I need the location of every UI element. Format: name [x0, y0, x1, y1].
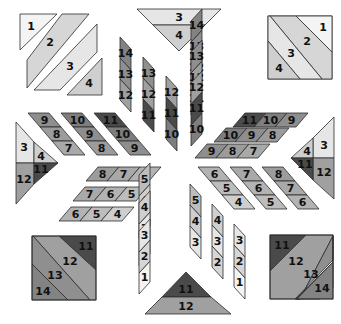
strip-piece-label: 11	[141, 109, 156, 122]
label-br-11: 11	[274, 239, 289, 252]
strip-piece-label: 4	[214, 214, 222, 227]
strip-piece-label: 4	[141, 201, 149, 214]
strip-bottom-right-1: 543	[190, 184, 201, 259]
label-tl-2: 2	[46, 36, 54, 49]
label-left-4: 4	[37, 150, 45, 163]
corner-bottom-left: 11 12 13 14	[32, 236, 96, 300]
strip-piece-label: 12	[189, 81, 204, 94]
strip-piece-label: 10	[164, 128, 180, 141]
triangle-top: 3 4	[137, 9, 221, 51]
strip-piece-label: 2	[236, 255, 244, 268]
strip-piece-label: 8	[98, 142, 106, 155]
strip-piece-label: 8	[229, 145, 237, 158]
strip-bottom-right-3: 321	[234, 224, 245, 299]
strip-piece-label: 5	[128, 188, 136, 201]
label-tr-1: 1	[319, 21, 327, 34]
label-tr-2: 2	[303, 35, 311, 48]
strip-piece-label: 3	[214, 235, 222, 248]
strip-piece-label: 7	[65, 142, 73, 155]
strip-piece-label: 10	[115, 128, 131, 141]
label-br-14: 14	[314, 282, 330, 295]
label-left-12: 12	[16, 173, 31, 186]
strip-piece-label: 3	[192, 236, 200, 249]
strip-top-left-2: 131211	[141, 57, 156, 132]
strip-piece-label: 8	[269, 129, 277, 142]
strip-piece-label: 7	[120, 168, 128, 181]
strip-piece-label: 9	[41, 114, 49, 127]
strip-piece-label: 5	[192, 194, 200, 207]
strip-piece-label: 4	[114, 208, 122, 221]
label-right-3: 3	[320, 139, 328, 152]
strip-piece-label: 6	[211, 168, 219, 181]
strip-right-upper-2: 1098	[214, 128, 289, 142]
strip-piece-label: 5	[267, 196, 275, 209]
strip-piece-label: 8	[99, 168, 107, 181]
strip-piece-label: 8	[53, 128, 61, 141]
strip-piece-label: 2	[214, 256, 222, 269]
strip-piece-label: 7	[243, 168, 251, 181]
strip-piece-label: 6	[72, 208, 80, 221]
label-br-13: 13	[303, 268, 318, 281]
strip-top-left-1: 141312	[118, 37, 134, 112]
label-tl-3: 3	[66, 60, 74, 73]
corner-bottom-right: 11 12 13 14	[270, 235, 333, 299]
strip-piece-label: 7	[287, 182, 295, 195]
strip-piece-label: 2	[141, 250, 149, 263]
piece-right-3	[313, 117, 334, 158]
strip-piece-label: 9	[208, 145, 216, 158]
strip-left-lower-2: 765	[73, 187, 148, 201]
strip-piece-label: 7	[86, 188, 94, 201]
strip-piece-label: 10	[70, 114, 86, 127]
strip-bottom-right-2: 432	[212, 204, 223, 279]
strip-piece-label: 3	[236, 234, 244, 247]
label-bottom-12: 12	[178, 300, 193, 313]
strip-right-upper-1: 11109	[233, 113, 308, 127]
label-top-3: 3	[175, 11, 183, 24]
strip-piece-label: 12	[118, 89, 133, 102]
label-br-12: 12	[288, 255, 303, 268]
strip-piece-label: 5	[93, 208, 101, 221]
label-right-11: 11	[297, 158, 312, 171]
strip-top-left-3: 121110	[164, 76, 180, 151]
label-left-11: 11	[33, 163, 48, 176]
strip-piece-label: 10	[263, 114, 279, 127]
strip-piece-label: 6	[255, 182, 263, 195]
strip-piece-label: 11	[242, 114, 257, 127]
strip-piece-label: 9	[248, 129, 256, 142]
strip-piece-label: 9	[131, 142, 139, 155]
label-tl-4: 4	[85, 77, 93, 90]
strip-piece-label: 5	[141, 173, 149, 186]
strip-piece-label: 3	[141, 229, 149, 242]
strip-piece-label: 4	[235, 196, 243, 209]
label-tl-1: 1	[27, 20, 35, 33]
strip-piece-label: 6	[299, 196, 307, 209]
strip-piece-label: 14	[189, 19, 205, 32]
strip-piece-label: 11	[103, 114, 118, 127]
strip-right-upper-3: 987	[195, 144, 270, 158]
label-tr-4: 4	[275, 62, 283, 75]
strip-piece-label: 6	[107, 188, 115, 201]
label-right-4: 4	[303, 145, 311, 158]
label-bl-13: 13	[47, 269, 62, 282]
corner-top-right: 1 2 3 4	[268, 16, 332, 79]
strip-piece-label: 13	[189, 50, 204, 63]
label-bl-14: 14	[35, 285, 51, 298]
strip-top-right-3: 101112	[189, 71, 205, 146]
label-right-12: 12	[316, 166, 331, 179]
strip-piece-label: 1	[236, 276, 244, 289]
corner-top-left: 1 2 3 4	[20, 14, 102, 95]
strip-piece-label: 8	[275, 168, 283, 181]
label-bottom-11: 11	[178, 283, 193, 296]
strip-piece-label: 9	[86, 128, 94, 141]
strip-piece-label: 7	[250, 145, 258, 158]
strip-left-lower-3: 654	[59, 207, 134, 221]
strip-bottom-left-3: 123	[139, 219, 150, 294]
piece-right-12	[313, 158, 334, 199]
quilt-diagram: 1 2 3 4 1 2 3 4 11 12 13 14 11 12	[0, 0, 341, 324]
triangle-bottom: 11 12	[145, 272, 231, 314]
label-top-4: 4	[175, 29, 183, 42]
label-bl-12: 12	[62, 255, 77, 268]
label-left-3: 3	[20, 141, 28, 154]
strip-piece-label: 1	[141, 271, 149, 284]
label-tr-3: 3	[287, 47, 295, 60]
